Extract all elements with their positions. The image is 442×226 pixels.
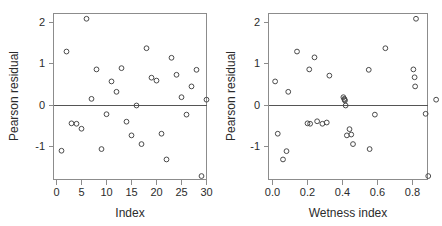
data-point — [414, 16, 419, 21]
data-point — [179, 95, 184, 100]
y-tick-label: -1 — [250, 140, 260, 152]
data-point — [412, 75, 417, 80]
data-point — [347, 127, 352, 132]
data-point — [164, 157, 169, 162]
x-tick-label: 0.2 — [300, 186, 315, 198]
y-axis-ticks-wetness — [264, 23, 269, 147]
data-point — [149, 75, 154, 80]
x-axis-ticks-index — [57, 180, 207, 185]
data-point — [411, 67, 416, 72]
data-point — [327, 73, 332, 78]
data-point — [275, 131, 280, 136]
scatter-panel-index: 2 1 0 -1 0 5 10 15 20 25 30 Index Pearso… — [0, 0, 221, 226]
x-axis-tick-labels-wetness: 0.0 0.2 0.4 0.6 0.8 — [265, 186, 420, 198]
data-point — [307, 67, 312, 72]
y-axis-tick-labels-index: 2 1 0 -1 — [35, 16, 45, 152]
data-point — [69, 121, 74, 126]
y-axis-ticks-index — [49, 23, 54, 147]
data-point — [79, 126, 84, 131]
data-points-wetness — [273, 16, 439, 178]
data-point — [184, 112, 189, 117]
data-point — [104, 112, 109, 117]
x-axis-title: Wetness index — [309, 206, 388, 220]
data-point — [144, 46, 149, 51]
data-point — [159, 131, 164, 136]
y-tick-label: 2 — [254, 16, 260, 28]
data-point — [194, 67, 199, 72]
y-axis-title: Pearson residual — [7, 51, 21, 141]
x-axis-tick-labels-index: 0 5 10 15 20 25 30 — [53, 186, 212, 198]
data-point — [284, 149, 289, 154]
data-point — [59, 148, 64, 153]
data-point — [351, 142, 356, 147]
scatter-svg-wetness: 2 1 0 -1 0.0 0.2 0.4 0.6 0.8 Wetness ind… — [221, 0, 442, 226]
data-point — [434, 97, 439, 102]
y-tick-label: 1 — [254, 57, 260, 69]
data-point — [154, 78, 159, 83]
data-point — [174, 72, 179, 77]
data-points-index — [59, 16, 209, 178]
data-point — [124, 119, 129, 124]
data-point — [89, 96, 94, 101]
x-axis-ticks-wetness — [273, 180, 413, 185]
x-tick-label: 10 — [100, 186, 112, 198]
x-tick-label: 0.6 — [370, 186, 385, 198]
data-point — [281, 157, 286, 162]
y-tick-label: -1 — [35, 140, 45, 152]
scatter-panel-wetness: 2 1 0 -1 0.0 0.2 0.4 0.6 0.8 Wetness ind… — [221, 0, 442, 226]
data-point — [367, 147, 372, 152]
x-tick-label: 5 — [78, 186, 84, 198]
x-tick-label: 0.0 — [265, 186, 280, 198]
x-tick-label: 0.4 — [335, 186, 350, 198]
data-point — [383, 46, 388, 51]
data-point — [324, 120, 329, 125]
y-tick-label: 1 — [39, 57, 45, 69]
y-tick-label: 2 — [39, 16, 45, 28]
x-tick-label: 20 — [150, 186, 162, 198]
x-tick-label: 0.8 — [405, 186, 420, 198]
data-point — [119, 66, 124, 71]
data-point — [74, 121, 79, 126]
data-point — [114, 89, 119, 94]
y-axis-title: Pearson residual — [224, 51, 238, 141]
y-tick-label: 0 — [254, 99, 260, 111]
x-tick-label: 15 — [125, 186, 137, 198]
plot-frame-wetness — [269, 14, 428, 180]
data-point — [413, 84, 418, 89]
data-point — [84, 16, 89, 21]
y-tick-label: 0 — [39, 99, 45, 111]
data-point — [366, 67, 371, 72]
data-point — [129, 133, 134, 138]
data-point — [286, 89, 291, 94]
x-tick-label: 30 — [200, 186, 212, 198]
figure-container: 2 1 0 -1 0 5 10 15 20 25 30 Index Pearso… — [0, 0, 442, 226]
x-tick-label: 25 — [175, 186, 187, 198]
data-point — [139, 142, 144, 147]
data-point — [295, 49, 300, 54]
data-point — [273, 79, 278, 84]
data-point — [99, 147, 104, 152]
data-point — [94, 67, 99, 72]
data-point — [169, 55, 174, 60]
data-point — [312, 55, 317, 60]
y-axis-tick-labels-wetness: 2 1 0 -1 — [250, 16, 260, 152]
scatter-svg-index: 2 1 0 -1 0 5 10 15 20 25 30 Index Pearso… — [0, 0, 221, 226]
x-tick-label: 0 — [53, 186, 59, 198]
data-point — [109, 79, 114, 84]
data-point — [199, 174, 204, 179]
x-axis-title: Index — [115, 206, 144, 220]
data-point — [372, 112, 377, 117]
data-point — [189, 84, 194, 89]
data-point — [315, 119, 320, 124]
data-point — [426, 174, 431, 179]
data-point — [64, 49, 69, 54]
